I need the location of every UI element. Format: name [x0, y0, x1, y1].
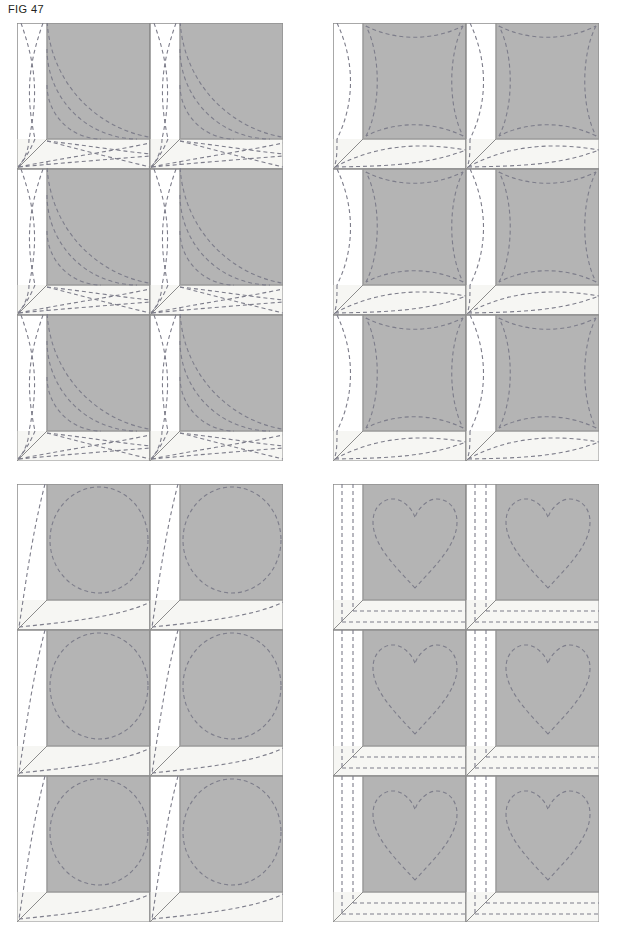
quilt-block: [466, 315, 599, 461]
quilt-block: [17, 161, 171, 315]
panel-bottom-right: [333, 484, 599, 922]
quilt-block: [466, 630, 599, 776]
quilt-block: [466, 169, 599, 315]
quilt-block: [17, 630, 150, 776]
panel-top-right: [333, 23, 599, 461]
quilt-block: [17, 23, 171, 169]
quilt-block: [333, 315, 466, 461]
quilt-block: [333, 484, 466, 630]
quilt-block: [17, 484, 150, 630]
quilt-block: [466, 776, 599, 922]
quilt-block: [333, 776, 466, 922]
quilt-block: [333, 23, 466, 169]
quilt-block: [150, 630, 283, 776]
quilt-block: [150, 776, 283, 922]
quilt-block: [17, 307, 171, 461]
panel-bottom-left: [17, 484, 283, 922]
panel-top-left: [17, 23, 283, 461]
quilt-block: [333, 630, 466, 776]
figure-label: FIG 47: [8, 4, 44, 15]
quilt-block: [150, 484, 283, 630]
quilt-block: [150, 161, 283, 315]
quilt-block: [466, 23, 599, 169]
quilt-block: [17, 776, 150, 922]
quilt-block: [150, 307, 283, 461]
quilt-block: [466, 484, 599, 630]
quilt-block: [150, 23, 283, 169]
quilt-block: [333, 169, 466, 315]
